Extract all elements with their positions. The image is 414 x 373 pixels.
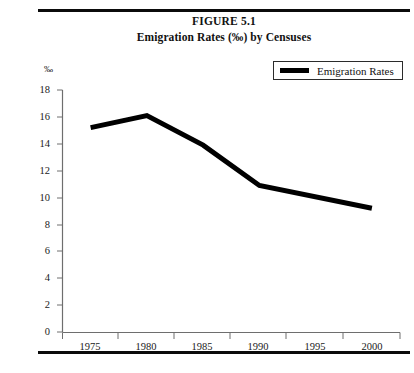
y-tick-label-14: 14 <box>30 138 50 149</box>
y-tick-label-6: 6 <box>30 245 50 256</box>
y-tick-label-4: 4 <box>30 272 50 283</box>
plot-area <box>0 0 414 373</box>
y-tick-label-16: 16 <box>30 111 50 122</box>
series-line-emigration-rates <box>91 116 372 209</box>
y-axis-ticks <box>57 90 63 332</box>
figure-container: FIGURE 5.1 Emigration Rates (‰) by Censu… <box>0 0 414 373</box>
y-tick-label-0: 0 <box>30 326 50 337</box>
bottom-rule <box>38 351 410 354</box>
x-axis-ticks <box>63 333 401 340</box>
y-tick-label-18: 18 <box>30 84 50 95</box>
y-tick-label-8: 8 <box>30 219 50 230</box>
y-tick-label-2: 2 <box>30 299 50 310</box>
y-tick-label-12: 12 <box>30 165 50 176</box>
y-tick-label-10: 10 <box>30 192 50 203</box>
